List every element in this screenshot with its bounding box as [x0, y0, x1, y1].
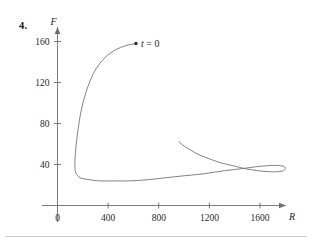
y-tick-label: 80	[40, 119, 50, 129]
phase-plane-plot: 040080012001600 4080120160 t= 0 R F	[0, 0, 312, 246]
x-tick-label: 1600	[251, 213, 270, 223]
initial-point-label: t= 0	[141, 38, 159, 49]
trajectory-curves	[75, 44, 286, 181]
annotation-value: = 0	[146, 38, 159, 49]
y-tick-label: 120	[35, 78, 50, 88]
footer-divider	[6, 236, 306, 237]
y-axis-arrow-icon	[55, 27, 61, 34]
x-tick-label: 0	[55, 213, 60, 223]
x-axis	[42, 203, 286, 209]
x-tick-label: 800	[152, 213, 167, 223]
x-tick-label: 1200	[200, 213, 219, 223]
x-tick-label: 400	[101, 213, 116, 223]
annotation-variable: t	[141, 38, 144, 49]
figure-container: 4. 040080012001600 4080120160 t= 0 R F	[0, 0, 312, 246]
y-tick-label: 160	[35, 37, 50, 47]
y-tick-label: 40	[40, 160, 50, 170]
y-axis	[55, 27, 61, 222]
trajectory-path	[75, 44, 286, 181]
x-axis-arrow-icon	[279, 203, 286, 209]
plot-annotations: t= 0	[134, 38, 159, 49]
x-axis-label: R	[288, 211, 295, 222]
problem-number: 4.	[19, 20, 27, 31]
initial-point-dot	[134, 42, 137, 45]
y-axis-label: F	[49, 16, 57, 27]
